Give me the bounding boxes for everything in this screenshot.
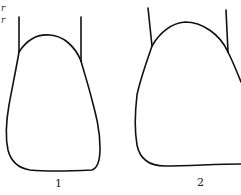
shape-1-outline — [6, 17, 100, 171]
outline-drawings — [0, 0, 241, 195]
shape-2-outline — [135, 8, 241, 166]
shape-1-label: 1 — [55, 178, 62, 189]
shape-2-label: 2 — [197, 177, 204, 188]
